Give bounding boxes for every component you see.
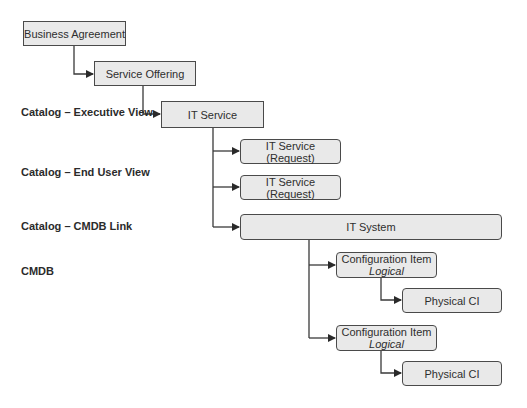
node-title: Configuration Item [342,253,432,265]
node-physical-ci-2[interactable]: Physical CI [402,361,502,386]
diagram-canvas: Catalog – Executive View Catalog – End U… [0,0,527,408]
label-catalog-cmdb-link: Catalog – CMDB Link [21,220,132,232]
label-cmdb: CMDB [21,265,54,277]
node-it-service-request-2[interactable]: IT Service (Request) [240,175,341,200]
node-title: IT Service (Request) [241,140,340,164]
node-service-offering[interactable]: Service Offering [94,61,196,86]
node-it-service[interactable]: IT Service [161,101,264,128]
node-title: IT Service [188,109,237,121]
node-title: Configuration Item [342,326,432,338]
node-title: IT System [346,221,395,233]
node-subtitle: Logical [369,338,404,350]
node-title: Physical CI [424,295,479,307]
node-title: Service Offering [106,68,185,80]
node-business-agreement[interactable]: Business Agreement [23,21,126,46]
node-title: Physical CI [424,368,479,380]
label-catalog-end-user-view: Catalog – End User View [21,166,150,178]
node-subtitle: Logical [369,265,404,277]
node-physical-ci-1[interactable]: Physical CI [402,288,502,313]
node-configuration-item-1[interactable]: Configuration Item Logical [336,252,437,278]
node-it-service-request-1[interactable]: IT Service (Request) [240,139,341,164]
label-catalog-executive-view: Catalog – Executive View [21,106,153,118]
connector-lines [0,0,527,408]
node-configuration-item-2[interactable]: Configuration Item Logical [336,325,437,351]
node-title: IT Service (Request) [241,176,340,200]
node-it-system[interactable]: IT System [240,214,502,240]
node-title: Business Agreement [24,28,125,40]
